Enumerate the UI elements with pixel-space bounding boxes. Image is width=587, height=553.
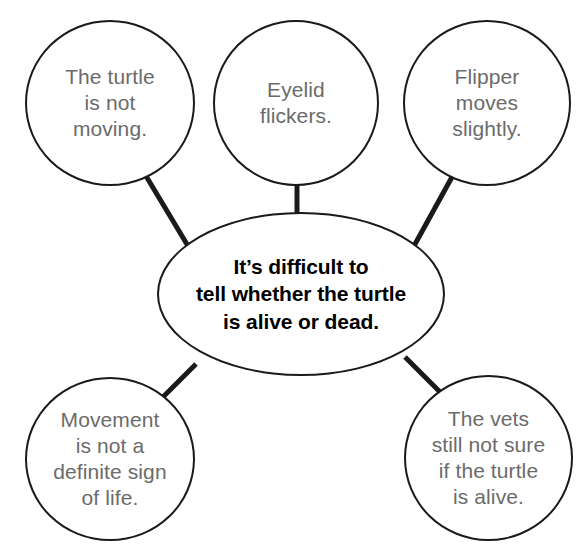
node-eyelid-flickers-label: Eyelid flickers. xyxy=(230,77,363,129)
concept-map-diagram: The turtle is not moving. Eyelid flicker… xyxy=(0,0,587,553)
node-turtle-not-moving-label: The turtle is not moving. xyxy=(42,64,178,142)
connector-flipper-moves xyxy=(414,177,452,246)
node-eyelid-flickers[interactable]: Eyelid flickers. xyxy=(213,20,379,186)
connector-turtle-not-moving xyxy=(146,176,188,246)
node-turtle-not-moving[interactable]: The turtle is not moving. xyxy=(25,20,195,186)
connector-vets-not-sure xyxy=(405,357,441,393)
node-flipper-moves-label: Flipper moves slightly. xyxy=(420,64,554,142)
node-vets-not-sure-label: The vets still not sure if the turtle is… xyxy=(421,406,556,510)
node-movement-not-sign[interactable]: Movement is not a definite sign of life. xyxy=(25,377,195,541)
node-center-claim[interactable]: It’s difficult to tell whether the turtl… xyxy=(157,212,445,376)
node-flipper-moves[interactable]: Flipper moves slightly. xyxy=(403,20,571,186)
node-vets-not-sure[interactable]: The vets still not sure if the turtle is… xyxy=(404,375,573,541)
node-center-claim-label: It’s difficult to tell whether the turtl… xyxy=(170,253,431,335)
node-movement-not-sign-label: Movement is not a definite sign of life. xyxy=(42,407,178,511)
connector-movement-not-sign xyxy=(163,364,196,397)
